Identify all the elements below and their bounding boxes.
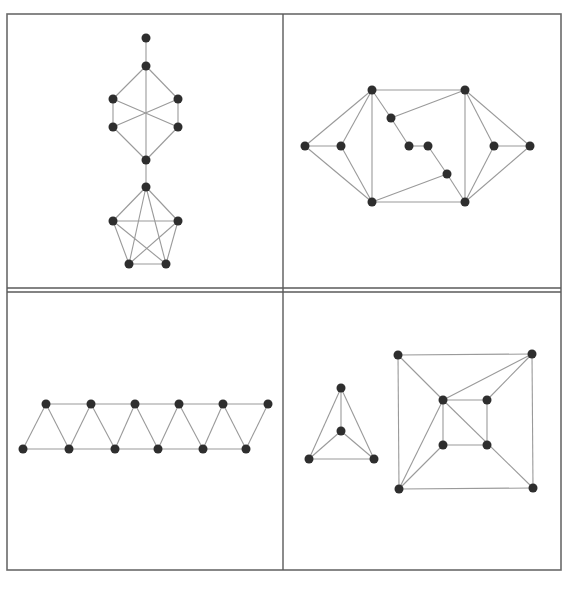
graph-vertex <box>368 198 377 207</box>
graph-edge <box>91 404 115 449</box>
graph-edge <box>158 404 179 449</box>
graph-vertex <box>219 400 228 409</box>
graph-edge <box>341 146 372 202</box>
graph-edge <box>309 388 341 459</box>
graph-panel-bottom-right <box>305 350 538 494</box>
graph-vertex <box>368 86 377 95</box>
graph-edge <box>129 187 146 264</box>
graph-vertex <box>528 350 537 359</box>
graph-vertex <box>461 198 470 207</box>
graph-edge <box>135 404 158 449</box>
graph-vertex <box>65 445 74 454</box>
graph-edge <box>146 127 178 160</box>
graph-edge <box>113 127 146 160</box>
graph-vertex <box>242 445 251 454</box>
graph-edge <box>113 187 146 221</box>
graph-edge <box>372 174 447 202</box>
graph-vertex <box>142 34 151 43</box>
graph-vertex <box>337 142 346 151</box>
graph-edge <box>398 355 443 400</box>
graph-vertex <box>174 217 183 226</box>
graph-vertex <box>109 123 118 132</box>
graph-edge <box>487 354 532 400</box>
graph-edge <box>46 404 69 449</box>
graph-vertex <box>142 156 151 165</box>
graph-panel-bottom-left <box>19 400 273 454</box>
graph-edge <box>341 90 372 146</box>
graph-vertex <box>87 400 96 409</box>
graph-edge <box>203 404 223 449</box>
graph-edge <box>305 90 372 146</box>
graph-vertex <box>174 123 183 132</box>
graph-panel-top-right <box>301 86 535 207</box>
graph-edge <box>309 431 341 459</box>
graph-vertex <box>526 142 535 151</box>
graph-edge <box>399 445 443 489</box>
graph-vertex <box>439 396 448 405</box>
panel-dividers <box>7 14 561 570</box>
graph-vertex <box>305 455 314 464</box>
graph-edge <box>443 354 532 400</box>
graph-vertex <box>109 217 118 226</box>
graph-edge <box>465 146 530 202</box>
graph-edge <box>391 90 465 118</box>
graph-vertex <box>529 484 538 493</box>
graph-edge <box>398 354 532 355</box>
graph-vertex <box>424 142 433 151</box>
graph-edge <box>69 404 91 449</box>
graph-vertex <box>461 86 470 95</box>
graph-vertex <box>443 170 452 179</box>
graph-edge <box>399 488 533 489</box>
graph-edge <box>129 221 178 264</box>
graph-figure <box>0 0 569 590</box>
graph-edge <box>166 221 178 264</box>
graph-edge <box>465 90 530 146</box>
graph-vertex <box>19 445 28 454</box>
graph-vertex <box>125 260 134 269</box>
graph-edge <box>341 431 374 459</box>
graph-edge <box>398 355 399 489</box>
graph-edge <box>372 90 391 118</box>
graph-vertex <box>483 396 492 405</box>
graph-vertex <box>42 400 51 409</box>
graph-edge <box>305 146 372 202</box>
graph-vertex <box>394 351 403 360</box>
graph-vertex <box>142 183 151 192</box>
graph-vertex <box>131 400 140 409</box>
graph-edge <box>465 90 494 146</box>
graph-edge <box>223 404 246 449</box>
graph-edge <box>146 187 166 264</box>
graph-vertex <box>337 427 346 436</box>
graph-edge <box>23 404 46 449</box>
graph-edge <box>391 118 409 146</box>
graph-panel-top-left <box>109 34 183 269</box>
graph-vertex <box>154 445 163 454</box>
graph-edge <box>399 400 443 489</box>
graph-vertex <box>337 384 346 393</box>
graph-vertex <box>109 95 118 104</box>
graph-vertex <box>370 455 379 464</box>
graph-edge <box>246 404 268 449</box>
graph-vertex <box>387 114 396 123</box>
graph-vertex <box>301 142 310 151</box>
graph-vertex <box>439 441 448 450</box>
graph-edge <box>179 404 203 449</box>
graph-vertex <box>264 400 273 409</box>
graph-vertex <box>483 441 492 450</box>
graph-vertex <box>405 142 414 151</box>
graph-vertex <box>142 62 151 71</box>
graph-edge <box>341 388 374 459</box>
graph-vertex <box>111 445 120 454</box>
graph-edge <box>146 66 178 99</box>
graph-edge <box>532 354 533 488</box>
graph-vertex <box>175 400 184 409</box>
graph-edge <box>115 404 135 449</box>
graph-vertex <box>395 485 404 494</box>
graph-edge <box>465 146 494 202</box>
graph-vertex <box>174 95 183 104</box>
graph-vertex <box>490 142 499 151</box>
graph-edge <box>113 66 146 99</box>
graph-vertex <box>162 260 171 269</box>
graph-edge <box>447 174 465 202</box>
graph-vertex <box>199 445 208 454</box>
